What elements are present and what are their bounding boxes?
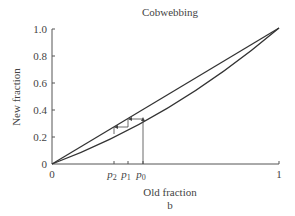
caption: b bbox=[167, 199, 173, 211]
x-tick-labels: 0 1 p2 p1 p0 bbox=[49, 168, 282, 182]
y-tick-0.6: 0.6 bbox=[33, 77, 47, 89]
y-tick-0: 0 bbox=[42, 158, 48, 170]
x-tick-p1: p1 bbox=[120, 168, 131, 182]
y-axis-label: New fraction bbox=[10, 68, 22, 126]
x-tick-0: 0 bbox=[49, 168, 55, 180]
x-tick-p2: p2 bbox=[106, 168, 117, 182]
y-tick-labels: 1.0 0.8 0.6 0.4 0.2 0 bbox=[33, 23, 47, 170]
x-tick-p0: p0 bbox=[135, 168, 146, 182]
y-tick-0.2: 0.2 bbox=[33, 131, 47, 143]
y-tick-0.4: 0.4 bbox=[33, 104, 47, 116]
y-tick-1.0: 1.0 bbox=[33, 23, 47, 35]
chart-title: Cobwebbing bbox=[142, 6, 199, 18]
x-axis-label: Old fraction bbox=[143, 186, 197, 198]
y-tick-0.8: 0.8 bbox=[33, 50, 47, 62]
x-tick-1: 1 bbox=[276, 168, 282, 180]
diagonal-line bbox=[52, 28, 279, 164]
cobwebbing-chart: Cobwebbing 1.0 0.8 0.6 0.4 0.2 0 0 1 p2 … bbox=[0, 0, 295, 216]
